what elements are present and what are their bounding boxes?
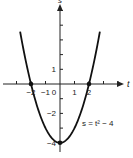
data-point [29, 82, 34, 87]
y-axis-label: s [58, 0, 62, 5]
x-tick-label: −2 [26, 88, 36, 97]
data-point [87, 82, 92, 87]
x-tick-label: 1 [72, 88, 77, 97]
parabola-chart: −2−10121−2−4tss = t² − 4 [0, 0, 133, 158]
x-tick-label: −1 [41, 88, 51, 97]
equation-label: s = t² − 4 [82, 119, 114, 128]
x-tick-label: 2 [87, 88, 92, 97]
y-axis-arrow [57, 4, 63, 11]
y-tick-label: −2 [47, 109, 57, 118]
data-point [58, 141, 63, 146]
x-axis-label: t [127, 79, 130, 89]
y-tick-label: 1 [52, 65, 57, 74]
y-tick-label: −4 [47, 139, 57, 148]
x-tick-label: 0 [52, 88, 57, 97]
